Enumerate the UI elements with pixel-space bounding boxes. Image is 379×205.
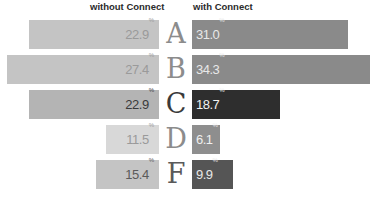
value-without-connect: 22.9 [125, 27, 148, 42]
bar-without-connect: 27.4% [7, 55, 159, 84]
value-with-connect: 18.7 [196, 97, 219, 112]
bar-without-connect: 15.4% [96, 160, 159, 189]
bar-with-connect: 31.0% [192, 20, 348, 49]
header-without-connect: without Connect [90, 1, 164, 12]
grade-row-b: 27.4%B34.3% [0, 55, 379, 84]
value-without-connect: 27.4 [125, 62, 148, 77]
grade-row-c: 22.9%C18.7% [0, 90, 379, 119]
value-without-connect: 15.4 [125, 167, 148, 182]
value-with-connect: 6.1 [196, 132, 213, 147]
percent-sign: % [219, 17, 224, 23]
grade-label: B [162, 52, 190, 86]
bar-without-connect: 22.9% [29, 90, 159, 119]
value-without-connect: 11.5 [126, 132, 148, 147]
value-with-connect: 34.3 [196, 62, 219, 77]
bar-with-connect: 34.3% [192, 55, 370, 84]
percent-sign: % [149, 17, 154, 23]
value-without-connect: 22.9 [125, 97, 148, 112]
grade-label: A [162, 17, 190, 51]
value-with-connect: 31.0 [196, 27, 219, 42]
grade-label: D [162, 122, 190, 156]
grade-row-d: 11.5%D6.1% [0, 125, 379, 154]
percent-sign: % [149, 157, 154, 163]
percent-sign: % [149, 122, 154, 128]
grade-row-f: 15.4%F9.9% [0, 160, 379, 189]
grade-label: F [162, 157, 190, 191]
grade-label: C [162, 87, 190, 121]
percent-sign: % [149, 52, 154, 58]
percent-sign: % [219, 52, 224, 58]
bar-without-connect: 11.5% [106, 125, 159, 154]
header-with-connect: with Connect [193, 1, 253, 12]
bar-with-connect: 6.1% [192, 125, 220, 154]
percent-sign: % [213, 122, 218, 128]
percent-sign: % [149, 87, 154, 93]
bar-without-connect: 22.9% [29, 20, 159, 49]
value-with-connect: 9.9 [196, 167, 213, 182]
bar-with-connect: 18.7% [192, 90, 280, 119]
percent-sign: % [219, 87, 224, 93]
bar-with-connect: 9.9% [192, 160, 233, 189]
grade-row-a: 22.9%A31.0% [0, 20, 379, 49]
percent-sign: % [213, 157, 218, 163]
